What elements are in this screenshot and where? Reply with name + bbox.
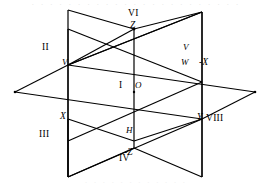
octant-diagram-figure: · · · · · · · · · · · · · · · · · · · · … — [0, 0, 272, 188]
rear-plane-edge-bottom-right — [134, 148, 202, 177]
octant-label-I: I — [119, 81, 122, 91]
origin-marker — [133, 91, 135, 93]
octant-label-III: III — [39, 130, 49, 140]
rear-vertical-plane-group — [68, 12, 202, 177]
chevron-h-right — [134, 119, 202, 141]
point-label-H: H — [126, 126, 133, 135]
rear-plane-edge-upper-left — [68, 29, 202, 82]
axis-label-y: Y — [197, 113, 202, 123]
horizontal-plane-edge-back-right — [68, 65, 255, 92]
wing-upper-left-diagonal — [68, 29, 134, 65]
wing-upper-right-top — [134, 12, 202, 29]
endpoint-marker-left — [14, 91, 17, 94]
lower-chevron-group — [68, 119, 202, 141]
octant-label-VIII: VIII — [206, 114, 224, 124]
chevron-h-left — [68, 119, 134, 141]
point-label-W: W — [181, 58, 189, 67]
point-label-O: O — [135, 81, 142, 90]
point-label-V-right: V — [183, 43, 189, 52]
upper-left-wing-group — [68, 10, 134, 65]
upper-right-wing-group — [134, 12, 202, 29]
wing-upper-left-top — [68, 10, 134, 29]
axis-label-neg-z: -Z — [124, 148, 132, 158]
point-label-V-left: V — [62, 58, 68, 67]
axis-label-neg-x: -X — [199, 58, 208, 68]
axis-label-z: Z — [130, 21, 135, 31]
diagram-canvas — [0, 0, 272, 188]
axis-label-x: X — [60, 112, 66, 122]
horizontal-plane-edge-front-left — [15, 92, 202, 119]
rear-plane-edge-lower-left — [68, 82, 202, 141]
horizontal-plane-edge-back-left — [15, 65, 68, 92]
octant-label-II: II — [42, 43, 49, 53]
octant-label-VI: VI — [128, 9, 139, 19]
endpoint-marker-right — [254, 91, 257, 94]
bottom-edge-scan-artifact: · · · · · · · · · · · · — [0, 178, 272, 188]
